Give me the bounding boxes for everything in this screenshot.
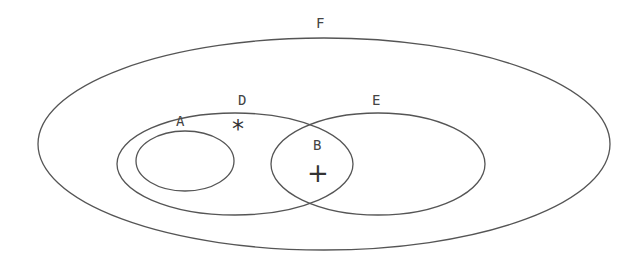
set-d-label: D xyxy=(238,92,246,108)
set-a-label: A xyxy=(176,113,185,129)
venn-svg: F D E A B * + xyxy=(0,0,636,265)
venn-diagram: F D E A B * + xyxy=(0,0,636,265)
set-f-ellipse xyxy=(38,38,610,250)
asterisk-marker-icon: * xyxy=(232,115,244,143)
set-e-label: E xyxy=(372,92,380,108)
set-e-ellipse xyxy=(271,113,485,215)
set-f-label: F xyxy=(316,15,324,31)
region-b-label: B xyxy=(313,137,321,153)
set-a-ellipse xyxy=(136,131,234,191)
plus-marker-icon: + xyxy=(307,158,329,188)
